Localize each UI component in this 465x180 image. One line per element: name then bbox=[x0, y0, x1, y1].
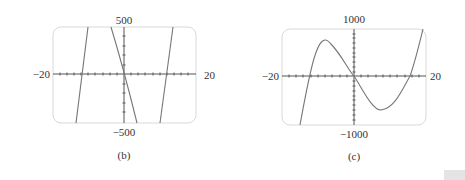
panel-c: 1000 −1000 −20 20 (c) bbox=[262, 13, 442, 163]
caption-b: (b) bbox=[118, 149, 131, 162]
y-min-label-b: −500 bbox=[113, 126, 136, 138]
curve-b-right bbox=[160, 27, 173, 123]
caption-c: (c) bbox=[348, 150, 361, 163]
figure: 500 −500 −20 20 (b) bbox=[0, 0, 465, 180]
x-max-label-c: 20 bbox=[430, 70, 442, 82]
x-min-label-b: −20 bbox=[33, 68, 51, 80]
curve-b-left bbox=[76, 27, 88, 123]
panel-b: 500 −500 −20 20 (b) bbox=[33, 14, 216, 162]
y-max-label-b: 500 bbox=[116, 14, 133, 26]
x-max-label-b: 20 bbox=[204, 69, 216, 81]
x-min-label-c: −20 bbox=[262, 70, 280, 82]
corner-mark bbox=[444, 170, 465, 180]
y-max-label-c: 1000 bbox=[343, 13, 366, 25]
y-min-label-c: −1000 bbox=[340, 128, 369, 140]
